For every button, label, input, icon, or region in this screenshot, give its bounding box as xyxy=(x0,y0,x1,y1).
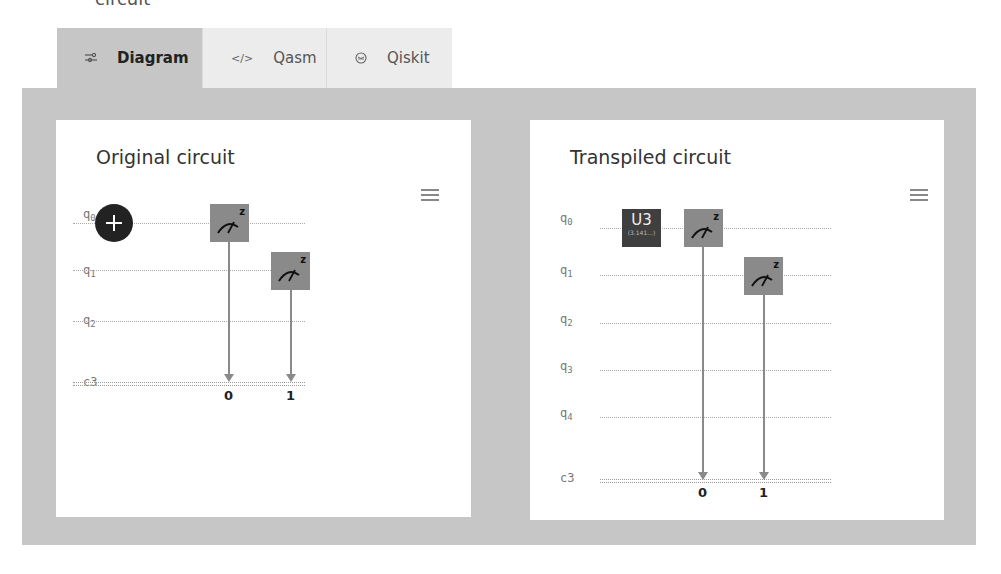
menu-icon[interactable] xyxy=(421,189,439,201)
tab-label: Qasm xyxy=(273,49,316,67)
tab-diagram[interactable]: Diagram xyxy=(57,28,203,88)
code-icon: </> xyxy=(231,52,253,65)
measure-line xyxy=(702,247,704,472)
arrow-down-icon xyxy=(286,374,296,382)
measure-gate[interactable]: z xyxy=(210,204,249,242)
qubit-wire xyxy=(600,417,831,418)
measure-line xyxy=(228,242,230,374)
qubit-label: q1 xyxy=(83,263,96,279)
arrow-down-icon xyxy=(759,472,769,480)
arrow-down-icon xyxy=(224,374,234,382)
qubit-label: q1 xyxy=(560,263,573,279)
qubit-label: q0 xyxy=(83,207,96,223)
measure-line xyxy=(290,290,292,374)
meter-icon xyxy=(750,270,776,288)
qubit-label: q4 xyxy=(560,406,573,422)
qubit-label: q3 xyxy=(560,359,573,375)
qiskit-icon xyxy=(355,52,367,64)
meter-icon xyxy=(690,222,716,240)
panel-title: Original circuit xyxy=(96,146,235,168)
bit-label: 0 xyxy=(698,485,707,500)
diagram-icon xyxy=(85,53,97,63)
tab-qasm[interactable]: </> Qasm xyxy=(203,28,327,88)
measure-gate[interactable]: z xyxy=(684,209,723,247)
measure-line xyxy=(763,295,765,472)
tab-qiskit[interactable]: Qiskit xyxy=(327,28,452,88)
qubit-label: q0 xyxy=(560,211,573,227)
qubit-wire xyxy=(73,321,305,322)
arrow-down-icon xyxy=(698,472,708,480)
meter-icon xyxy=(277,265,303,283)
qubit-wire xyxy=(600,275,831,276)
classical-wire xyxy=(73,382,305,386)
qubit-wire xyxy=(600,323,831,324)
menu-icon[interactable] xyxy=(910,189,928,201)
classical-wire xyxy=(600,479,831,483)
page-edge xyxy=(976,88,1001,545)
bit-label: 1 xyxy=(759,485,768,500)
view-tabs: Diagram </> Qasm Qiskit xyxy=(57,28,452,88)
qubit-label: q2 xyxy=(560,312,573,328)
qubit-wire xyxy=(600,370,831,371)
bit-label: 0 xyxy=(224,388,233,403)
meter-icon xyxy=(216,217,242,235)
panel-title: Transpiled circuit xyxy=(570,146,731,168)
classical-label: c3 xyxy=(560,471,574,485)
tab-label: Diagram xyxy=(117,49,189,67)
tab-label: Qiskit xyxy=(387,49,430,67)
measure-gate[interactable]: z xyxy=(271,252,310,290)
bit-label: 1 xyxy=(286,388,295,403)
original-circuit-panel: Original circuit q0 q1 q2 c3 z z 0 1 xyxy=(56,120,471,517)
section-heading: circuit xyxy=(95,0,150,9)
transpiled-circuit-panel: Transpiled circuit q0 q1 q2 q3 q4 c3 U3 … xyxy=(530,120,944,520)
x-gate[interactable] xyxy=(95,204,133,242)
u3-gate[interactable]: U3 (3.141...) xyxy=(622,209,661,247)
measure-gate[interactable]: z xyxy=(744,257,783,295)
